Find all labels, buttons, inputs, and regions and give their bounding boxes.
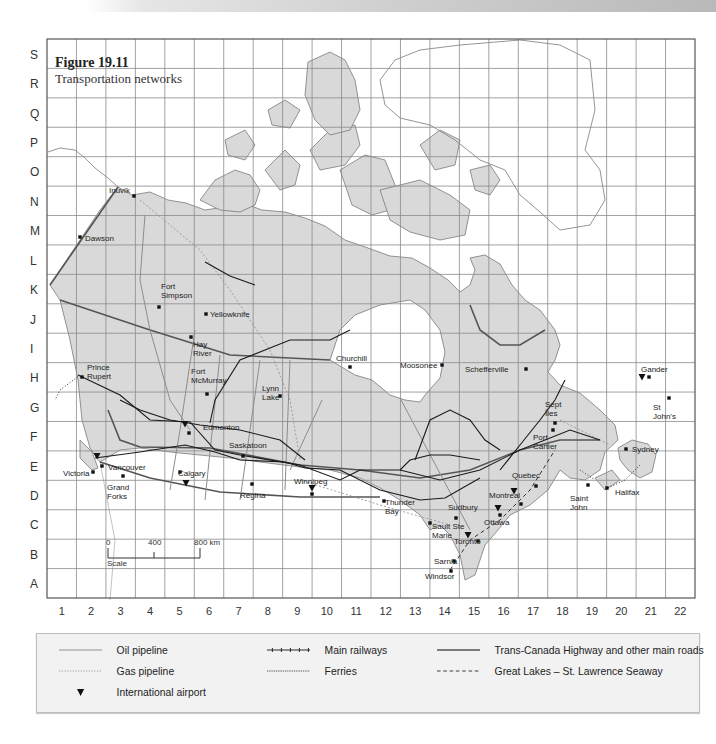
- column-label-18: 18: [556, 605, 568, 617]
- city-label: Churchill: [336, 354, 367, 363]
- column-label-10: 10: [321, 605, 333, 617]
- column-label-14: 14: [439, 605, 451, 617]
- legend-label: Main railways: [325, 644, 388, 656]
- legend-label: Ferries: [325, 665, 357, 677]
- legend-oil-pipeline: Oil pipeline: [59, 644, 168, 656]
- city-label: Simpson: [161, 291, 192, 300]
- city-yellowknife: Yellowknife: [204, 310, 250, 319]
- city-windsor: Windsor: [425, 569, 455, 581]
- city-label: Moosonee: [400, 361, 438, 370]
- row-label-G: G: [30, 401, 39, 415]
- scale-tick-800: 800 km: [194, 538, 221, 547]
- city-label: Quebec: [512, 471, 540, 480]
- city-victoria: Victoria: [63, 469, 95, 478]
- city-vancouver: Vancouver: [100, 463, 146, 472]
- city-marker-icon: [132, 194, 135, 197]
- row-label-N: N: [30, 195, 39, 209]
- row-label-Q: Q: [30, 107, 39, 121]
- city-label: Grand: [107, 483, 129, 492]
- row-label-C: C: [30, 518, 39, 532]
- city-label: Edmonton: [203, 423, 239, 432]
- column-label-7: 7: [235, 605, 241, 617]
- city-label: Rupert: [87, 372, 112, 381]
- column-label-22: 22: [674, 605, 686, 617]
- city-label: St: [653, 403, 661, 412]
- row-label-J: J: [30, 313, 36, 327]
- city-label: Sudbury: [448, 503, 478, 512]
- city-marker-icon: [250, 482, 253, 485]
- city-label: Lynn: [262, 384, 279, 393]
- city-marker-icon: [454, 516, 457, 519]
- city-moosonee: Moosonee: [400, 361, 444, 370]
- city-label: Regina: [240, 491, 266, 500]
- city-marker-icon: [667, 396, 670, 399]
- column-label-13: 13: [409, 605, 421, 617]
- row-label-D: D: [30, 489, 39, 503]
- seaway-icon: [437, 666, 480, 676]
- oil-pipeline-icon: [59, 645, 102, 655]
- city-marker-icon: [80, 375, 83, 378]
- column-label-5: 5: [176, 605, 182, 617]
- column-label-1: 1: [59, 605, 65, 617]
- city-marker-icon: [205, 392, 208, 395]
- column-label-8: 8: [265, 605, 271, 617]
- legend-label: Great Lakes – St. Lawrence Seaway: [495, 665, 663, 677]
- city-label: Sarnia: [434, 557, 458, 566]
- column-label-17: 17: [527, 605, 539, 617]
- scale-tick-0: 0: [106, 538, 111, 547]
- city-label: John's: [653, 412, 676, 421]
- city-marker-icon: [121, 474, 124, 477]
- column-label-6: 6: [206, 605, 212, 617]
- column-label-2: 2: [88, 605, 94, 617]
- city-label: John: [570, 503, 587, 512]
- city-marker-icon: [241, 454, 244, 457]
- city-label: Saskatoon: [229, 441, 267, 450]
- row-label-F: F: [30, 430, 37, 444]
- city-marker-icon: [498, 513, 501, 516]
- city-grand-forks: GrandForks: [107, 474, 129, 501]
- city-label: Forks: [107, 492, 127, 501]
- row-label-O: O: [30, 165, 39, 179]
- city-label: Hay: [193, 340, 207, 349]
- city-marker-icon: [519, 502, 522, 505]
- city-label: Marie: [432, 531, 453, 540]
- city-label: Prince: [87, 363, 110, 372]
- legend-label: Gas pipeline: [117, 665, 175, 677]
- city-marker-icon: [624, 447, 627, 450]
- legend-ferry: Ferries: [267, 665, 357, 677]
- airport-icon: [59, 687, 102, 697]
- column-label-21: 21: [645, 605, 657, 617]
- city-label: Port: [533, 433, 548, 442]
- city-marker-icon: [605, 486, 608, 489]
- city-label: Bay: [385, 507, 399, 516]
- city-label: Inuvik: [109, 186, 131, 195]
- city-marker-icon: [310, 492, 313, 495]
- scale-tick-400: 400: [148, 538, 162, 547]
- highway-icon: [437, 645, 480, 655]
- city-label: Îles: [544, 409, 557, 418]
- city-calgary: Calgary: [178, 469, 206, 478]
- legend-airport: International airport: [59, 686, 206, 698]
- city-label: McMurray: [191, 376, 227, 385]
- column-label-20: 20: [615, 605, 627, 617]
- column-label-11: 11: [351, 605, 362, 617]
- row-label-P: P: [30, 136, 38, 150]
- column-label-19: 19: [586, 605, 598, 617]
- city-label: Sault Ste: [432, 522, 465, 531]
- city-label: Winnipeg: [294, 477, 327, 486]
- legend-highway: Trans-Canada Highway and other main road…: [437, 644, 704, 656]
- land-layer: [50, 52, 656, 580]
- legend-railway: Main railways: [267, 644, 387, 656]
- city-sarnia: Sarnia: [434, 557, 458, 566]
- city-marker-icon: [78, 235, 81, 238]
- scale-bar: [108, 548, 200, 558]
- city-st-john-s: StJohn's: [653, 396, 676, 421]
- city-label: Gander: [641, 365, 668, 374]
- city-label: Fort: [191, 367, 206, 376]
- city-label: Saint: [570, 494, 589, 503]
- legend-label: International airport: [117, 686, 206, 698]
- row-label-A: A: [30, 577, 38, 591]
- city-label: Vancouver: [108, 463, 146, 472]
- city-label: Dawson: [85, 234, 114, 243]
- row-label-L: L: [30, 254, 37, 268]
